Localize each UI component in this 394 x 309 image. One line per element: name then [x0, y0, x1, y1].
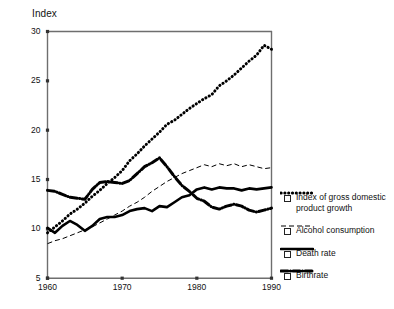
y-tick-mark: [46, 178, 49, 181]
legend-line-sample: [280, 216, 314, 224]
data-series-layer: [48, 45, 272, 243]
x-tick-mark: [270, 277, 273, 280]
legend-line-sample: [280, 183, 314, 191]
chart-legend: Index of gross domestic product growthAl…: [278, 183, 394, 284]
x-tick-mark: [195, 277, 198, 280]
y-tick-label: 15: [23, 174, 41, 184]
x-tick-label: 1970: [105, 282, 139, 292]
x-tick-mark: [46, 277, 49, 280]
y-tick-mark: [46, 79, 49, 82]
y-tick-label: 20: [23, 125, 41, 135]
legend-line-sample: [280, 261, 314, 269]
series-line-3: [48, 187, 272, 232]
legend-entry[interactable]: Alcohol consumption: [278, 216, 394, 236]
series-line-4: [48, 158, 272, 212]
legend-entry[interactable]: Index of gross domestic product growth: [278, 183, 394, 213]
x-tick-label: 1960: [31, 282, 65, 292]
y-tick-mark: [46, 129, 49, 132]
legend-entry[interactable]: Death rate: [278, 239, 394, 259]
y-tick-label: 5: [23, 273, 41, 283]
y-tick-label: 25: [23, 75, 41, 85]
x-tick-label: 1990: [255, 282, 289, 292]
legend-entry[interactable]: Birthrate: [278, 261, 394, 281]
chart-figure: Index 51015202530 1960197019801990 Index…: [0, 0, 394, 309]
legend-line-sample: [280, 239, 314, 247]
plot-frame: [48, 31, 273, 279]
y-tick-label: 10: [23, 223, 41, 233]
y-tick-label: 30: [23, 26, 41, 36]
x-tick-mark: [121, 277, 124, 280]
y-tick-mark: [46, 30, 49, 33]
x-tick-label: 1980: [180, 282, 214, 292]
